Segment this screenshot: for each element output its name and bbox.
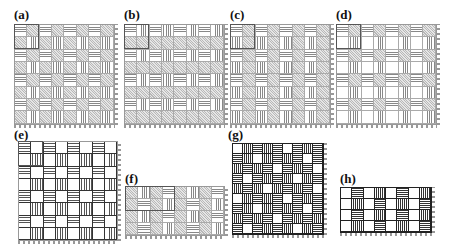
pattern-cell: [89, 74, 101, 86]
pattern-cell: [268, 62, 280, 74]
pattern-cell: [162, 111, 174, 123]
pattern-cell: [77, 74, 89, 86]
pattern-cell: [163, 199, 175, 211]
pattern-cell: [150, 74, 162, 86]
pattern-cell: [19, 228, 31, 240]
pattern-cell: [256, 87, 268, 99]
pattern-cell: [411, 50, 423, 62]
pattern-cell: [80, 191, 92, 203]
pattern-cell: [89, 99, 101, 111]
pattern-cell: [93, 142, 105, 154]
pattern-cell: [211, 111, 223, 123]
pattern-cell: [174, 62, 186, 74]
pattern-cell: [199, 25, 211, 37]
pattern-cell: [317, 50, 329, 62]
pattern-cell: [27, 62, 39, 74]
pattern-cell: [174, 74, 186, 86]
pattern-cell: [293, 50, 305, 62]
pattern-cell: [31, 167, 43, 179]
pattern-cell: [243, 224, 253, 234]
pattern-cell: [386, 74, 398, 86]
pattern-cell: [56, 142, 68, 154]
pattern-cell: [256, 50, 268, 62]
pattern-cell: [362, 25, 374, 37]
pattern-cell: [93, 228, 105, 240]
pattern-cell: [19, 179, 31, 191]
pattern-cell: [101, 87, 113, 99]
pattern-cell: [174, 37, 186, 49]
pattern-cell: [125, 37, 137, 49]
pattern-cell: [386, 62, 398, 74]
pattern-cell: [211, 25, 223, 37]
pattern-grid-f: [125, 186, 225, 236]
pattern-cell: [105, 203, 117, 215]
pattern-cell: [126, 211, 138, 223]
pattern-cell: [268, 111, 280, 123]
torn-edge-right: [225, 24, 228, 125]
panel-label-f: (f): [125, 172, 138, 185]
pattern-cell: [283, 224, 293, 234]
pattern-cell: [231, 37, 243, 49]
pattern-cell: [15, 50, 27, 62]
pattern-cell: [105, 142, 117, 154]
pattern-cell: [19, 191, 31, 203]
pattern-cell: [280, 87, 292, 99]
pattern-cell: [386, 111, 398, 123]
pattern-cell: [337, 99, 349, 111]
pattern-cell: [399, 111, 411, 123]
pattern-cell: [105, 167, 117, 179]
pattern-cell: [243, 25, 255, 37]
pattern-cell: [44, 203, 56, 215]
pattern-cell: [268, 37, 280, 49]
pattern-cell: [27, 87, 39, 99]
pattern-cell: [399, 37, 411, 49]
pattern-cell: [399, 87, 411, 99]
pattern-cell: [64, 37, 76, 49]
pattern-cell: [125, 50, 137, 62]
pattern-cell: [420, 188, 431, 199]
pattern-cell: [52, 74, 64, 86]
pattern-cell: [303, 174, 313, 184]
pattern-cell: [263, 204, 273, 214]
pattern-cell: [386, 210, 397, 221]
pattern-cell: [268, 50, 280, 62]
pattern-cell: [374, 50, 386, 62]
pattern-cell: [233, 184, 243, 194]
pattern-cell: [305, 87, 317, 99]
pattern-cell: [31, 154, 43, 166]
pattern-cell: [233, 194, 243, 204]
torn-edge-right: [324, 143, 327, 235]
pattern-cell: [352, 199, 363, 210]
pattern-cell: [233, 214, 243, 224]
pattern-cell: [105, 154, 117, 166]
pattern-cell: [44, 228, 56, 240]
pattern-cell: [273, 224, 283, 234]
pattern-cell: [31, 142, 43, 154]
pattern-cell: [68, 191, 80, 203]
pattern-cell: [150, 111, 162, 123]
pattern-cell: [341, 199, 352, 210]
pattern-cell: [362, 62, 374, 74]
pattern-cell: [364, 188, 375, 199]
pattern-cell: [303, 214, 313, 224]
pattern-cell: [68, 179, 80, 191]
pattern-cell: [187, 211, 199, 223]
panel-label-e: (e): [14, 128, 28, 141]
pattern-cell: [162, 50, 174, 62]
pattern-cell: [80, 216, 92, 228]
pattern-cell: [199, 62, 211, 74]
pattern-cell: [420, 221, 431, 232]
pattern-cell: [280, 62, 292, 74]
pattern-cell: [420, 210, 431, 221]
pattern-cell: [313, 154, 323, 164]
pattern-cell: [303, 194, 313, 204]
pattern-cell: [137, 50, 149, 62]
pattern-cell: [420, 199, 431, 210]
pattern-cell: [273, 184, 283, 194]
pattern-cell: [15, 87, 27, 99]
pattern-cell: [283, 174, 293, 184]
pattern-cell: [243, 154, 253, 164]
pattern-cell: [44, 216, 56, 228]
pattern-cell: [263, 194, 273, 204]
pattern-cell: [15, 111, 27, 123]
